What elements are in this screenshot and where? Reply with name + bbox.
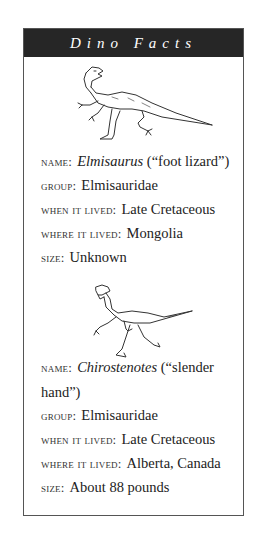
fact-value: Mongolia (127, 225, 183, 241)
fact-value: Elmisauridae (81, 407, 158, 423)
fact-label: WHEN IT LIVED: (41, 202, 116, 217)
fact-name: NAME:Elmisaurus (“foot lizard”) (41, 149, 237, 174)
fact-label: NAME: (41, 154, 72, 169)
dinosaur-name: Chirostenotes (77, 359, 157, 375)
fact-group: GROUP:Elmisauridae (41, 403, 237, 428)
dino-facts-sidebar: Dino Facts NAME:Elmisaurus (“foot lizard… (23, 28, 244, 516)
fact-label: GROUP: (41, 408, 76, 423)
fact-where: WHERE IT LIVED:Alberta, Canada (41, 451, 237, 476)
fact-name: NAME:Chirostenotes (“slender hand”) (41, 355, 241, 405)
dinosaur-name: Elmisaurus (77, 153, 143, 169)
fact-where: WHERE IT LIVED:Mongolia (41, 221, 237, 246)
fact-value: Unknown (70, 249, 127, 265)
fact-size: SIZE:Unknown (41, 245, 237, 270)
name-meaning: (“foot lizard”) (143, 153, 229, 169)
fact-label: WHERE IT LIVED: (41, 456, 122, 471)
fact-value: Late Cretaceous (121, 431, 215, 447)
fact-value: Late Cretaceous (121, 201, 215, 217)
fact-label: WHEN IT LIVED: (41, 432, 116, 447)
fact-label: NAME: (41, 360, 72, 375)
fact-label: SIZE: (41, 480, 65, 495)
fact-value: About 88 pounds (70, 479, 170, 495)
fact-label: GROUP: (41, 178, 76, 193)
chirostenotes-illustration (72, 283, 198, 361)
fact-group: GROUP:Elmisauridae (41, 173, 237, 198)
sidebar-title: Dino Facts (24, 29, 243, 57)
fact-value: Elmisauridae (81, 177, 158, 193)
fact-when: WHEN IT LIVED:Late Cretaceous (41, 197, 237, 222)
fact-label: SIZE: (41, 250, 65, 265)
fact-value: Alberta, Canada (127, 455, 221, 471)
fact-when: WHEN IT LIVED:Late Cretaceous (41, 427, 237, 452)
fact-size: SIZE:About 88 pounds (41, 475, 237, 500)
fact-label: WHERE IT LIVED: (41, 226, 122, 241)
elmisaurus-illustration (72, 65, 214, 141)
